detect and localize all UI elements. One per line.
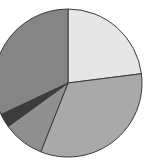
pie-slice-1 — [68, 9, 141, 83]
pie-chart — [0, 0, 153, 166]
